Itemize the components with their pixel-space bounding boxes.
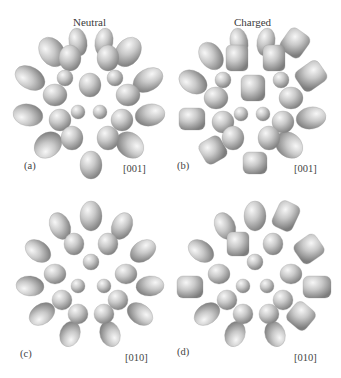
panel-label-c: (c): [20, 348, 32, 359]
direction-label-c: [010]: [125, 352, 148, 363]
direction-label-b: [001]: [294, 163, 317, 174]
panel-label-b: (b): [177, 160, 189, 171]
panel-label-d: (d): [177, 346, 189, 357]
isosurface-neutral-010: [0, 196, 170, 356]
panel-d-charged-010: (d) [010]: [171, 196, 341, 376]
isosurface-neutral-001: [0, 20, 170, 180]
panel-a-neutral-001: (a) [001]: [0, 20, 170, 200]
direction-label-a: [001]: [123, 163, 146, 174]
panel-c-neutral-010: (c) [010]: [0, 196, 170, 376]
panel-label-a: (a): [24, 160, 36, 171]
isosurface-charged-010: [171, 196, 341, 356]
panel-b-charged-001: (b) [001]: [171, 20, 341, 200]
direction-label-d: [010]: [294, 352, 317, 363]
isosurface-charged-001: [171, 20, 341, 180]
